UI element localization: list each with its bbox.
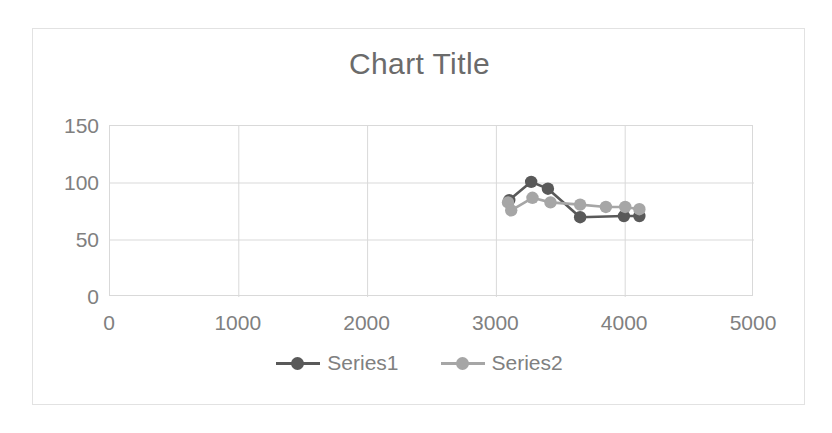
x-axis-tick-label: 3000 [450,312,540,333]
data-point-marker[interactable] [574,198,586,210]
chart-legend[interactable]: Series1Series2 [33,351,806,375]
data-point-marker[interactable] [600,201,612,213]
x-axis-tick-label: 5000 [708,312,798,333]
x-axis-tick-label: 1000 [193,312,283,333]
y-axis-tick-label: 100 [41,172,99,193]
data-point-marker[interactable] [505,204,517,216]
x-axis-tick-label: 4000 [579,312,669,333]
data-point-marker[interactable] [542,183,554,195]
data-point-marker[interactable] [619,201,631,213]
x-axis-tick-label: 0 [64,312,154,333]
legend-label: Series2 [492,351,563,375]
x-axis-tick-label: 2000 [322,312,412,333]
legend-item-series2[interactable]: Series2 [441,351,563,375]
legend-item-series1[interactable]: Series1 [276,351,398,375]
chart-container[interactable]: Chart Title 050100150 010002000300040005… [32,28,805,405]
legend-dot-icon [456,357,469,370]
legend-label: Series1 [327,351,398,375]
legend-dot-icon [291,357,304,370]
y-axis-tick-label: 50 [41,229,99,250]
y-axis-tick-label: 0 [41,286,99,307]
data-point-marker[interactable] [544,196,556,208]
data-point-marker[interactable] [525,176,537,188]
y-axis-tick-label: 150 [41,115,99,136]
plot-area[interactable] [109,125,753,296]
data-point-marker[interactable] [633,203,645,215]
data-point-marker[interactable] [526,192,538,204]
plot-svg [110,126,754,297]
chart-title[interactable]: Chart Title [33,47,806,81]
legend-marker-icon [276,355,320,371]
data-point-marker[interactable] [574,211,586,223]
legend-marker-icon [441,355,485,371]
